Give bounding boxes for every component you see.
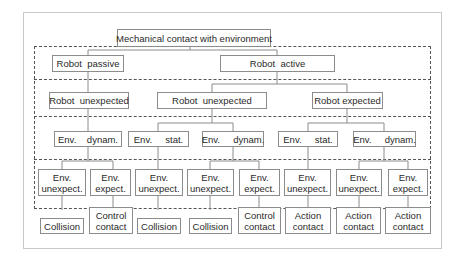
node-collision-1: Collision — [40, 218, 84, 234]
node-robot-active: Robot active — [220, 55, 335, 72]
node-env-unexpect-1: Env. unexpect. — [38, 169, 86, 196]
node-env-stat-2: Env. stat. — [278, 131, 338, 147]
node-env-dynam-2: Env. dynam. — [202, 131, 264, 147]
node-root: Mechanical contact with environment — [117, 29, 271, 47]
node-control-contact-1: Control contact — [89, 207, 133, 234]
node-env-stat-1: Env. stat. — [128, 131, 189, 147]
node-env-unexpect-3: Env. unexpect. — [187, 169, 234, 196]
node-action-contact-2: Action contact — [336, 207, 381, 234]
node-robot-unexpected-active: Robot unexpected — [157, 92, 267, 109]
node-action-contact-3: Action contact — [385, 207, 431, 234]
node-env-unexpect-5: Env. unexpect. — [336, 169, 382, 196]
node-env-expect-2: Env. expect. — [239, 169, 280, 196]
node-action-contact-1: Action contact — [285, 207, 331, 234]
node-robot-passive: Robot passive — [52, 55, 124, 72]
node-robot-expected: Robot expected — [312, 92, 383, 109]
node-env-unexpect-2: Env. unexpect. — [135, 169, 183, 196]
node-env-expect-1: Env. expect. — [90, 169, 131, 196]
node-collision-3: Collision — [189, 218, 232, 234]
node-env-expect-3: Env. expect. — [388, 169, 428, 196]
node-env-dynam-1: Env. dynam. — [54, 131, 122, 147]
node-robot-unexpected-passive: Robot unexpected — [49, 92, 129, 109]
node-collision-2: Collision — [137, 218, 181, 234]
node-env-unexpect-4: Env. unexpect. — [284, 169, 331, 196]
node-control-contact-2: Control contact — [238, 207, 281, 234]
node-env-dynam-3: Env. dynam. — [353, 131, 416, 147]
